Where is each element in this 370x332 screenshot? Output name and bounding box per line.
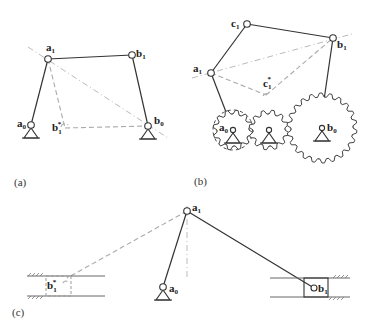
dash-line-b1star-b0	[65, 126, 148, 128]
label-b1star: b1*	[47, 278, 57, 294]
link-a0-a1	[163, 211, 187, 287]
label-c1: c1	[231, 17, 240, 31]
link-c1-b1	[247, 24, 333, 38]
panel-a: a1 b1 a0 b0 b1* (a)	[14, 41, 168, 189]
label-a0: a0	[17, 117, 27, 131]
joint-a1	[208, 70, 215, 77]
label-b1star: b1*	[52, 120, 62, 136]
link-a1-b1	[187, 211, 314, 288]
joint-a0	[28, 122, 35, 129]
label-b1: b1	[136, 47, 146, 61]
joint-a1	[184, 208, 191, 215]
dash-line-c1star-b1	[266, 38, 333, 95]
link-b1-gear	[324, 38, 333, 100]
dash-line-a1-c1star	[211, 73, 266, 95]
joint-a0	[160, 284, 167, 291]
caption-c: (c)	[12, 306, 25, 319]
joint-b1	[311, 285, 317, 291]
label-c1star: c1*	[263, 75, 272, 91]
mechanism-figure: a1 b1 a0 b0 b1* (a)	[0, 0, 370, 332]
ghost-joint-b1star	[63, 281, 68, 283]
link-a1-gear	[211, 73, 226, 112]
joint-b0	[319, 125, 324, 130]
joint-b1	[330, 35, 337, 42]
joint-b0	[145, 123, 152, 130]
joint-b1	[129, 52, 136, 59]
link-a0-a1	[31, 59, 48, 125]
joint-mid	[266, 127, 271, 132]
link-a1-b1	[48, 55, 132, 59]
joint-a0	[230, 127, 235, 132]
panel-b: c1 b1 a1 c1* a0 b0 (b)	[192, 17, 357, 188]
link-b1-b0	[132, 55, 148, 126]
joint-c1	[244, 21, 251, 28]
left-hatch-icon	[28, 273, 43, 299]
panel-c: b1* b1 a1 a0 (c)	[12, 201, 350, 319]
label-a1: a1	[192, 201, 202, 215]
joint-a1	[45, 56, 52, 63]
right-hatch-icon	[329, 275, 348, 300]
label-b0: b0	[154, 114, 164, 128]
label-b1: b1	[337, 38, 347, 52]
label-a1: a1	[193, 62, 203, 76]
ground-b0-icon	[139, 129, 157, 139]
label-a0: a0	[169, 282, 179, 296]
label-a1: a1	[46, 41, 56, 55]
caption-b: (b)	[194, 175, 207, 188]
link-a1-c1	[211, 24, 247, 73]
label-b1: b1	[318, 282, 328, 296]
caption-a: (a)	[14, 176, 27, 189]
